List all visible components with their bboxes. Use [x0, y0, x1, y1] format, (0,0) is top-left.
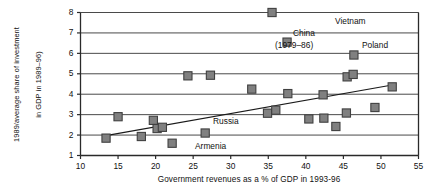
x-axis-tick-label: 20 [144, 161, 168, 171]
data-point-marker [268, 8, 276, 16]
x-axis-tick-label: 10 [69, 161, 93, 171]
data-point-marker [201, 129, 209, 137]
data-point-marker [319, 91, 327, 99]
y-axis-label-line-2: 1989/average share of investment [11, 5, 22, 165]
y-axis-label: MCP (GDP in 1998 as a % of 1989/average … [0, 5, 55, 165]
data-point-marker [332, 122, 340, 130]
data-point-marker [349, 70, 357, 78]
data-point-marker [263, 109, 271, 117]
point-annotation-label: China [293, 28, 315, 38]
x-axis-tick-label: 50 [369, 161, 393, 171]
data-point-marker [388, 83, 396, 91]
x-axis-label: Government revenues as a % of GDP in 199… [80, 175, 418, 184]
data-point-marker [184, 72, 192, 80]
data-point-marker [158, 123, 166, 131]
data-point-marker [114, 113, 122, 121]
y-axis-tick-label: 6 [60, 48, 74, 58]
x-axis-tick-label: 30 [219, 161, 243, 171]
x-axis-tick-label: 55 [407, 161, 431, 171]
point-annotation-label: Russia [213, 116, 239, 126]
data-point-marker [248, 85, 256, 93]
data-point-marker [206, 71, 214, 79]
x-axis-tick-label: 35 [256, 161, 280, 171]
y-axis-tick-label: 8 [60, 7, 74, 17]
data-point-marker [284, 90, 292, 98]
x-axis-tick-label: 25 [181, 161, 205, 171]
data-point-marker [350, 51, 358, 59]
y-axis-tick-label: 2 [60, 130, 74, 140]
y-axis-label-line-3: in GDP in 1989–96) [33, 5, 44, 165]
point-annotation-label: (1979–86) [275, 40, 313, 50]
data-point-marker [320, 114, 328, 122]
scatter-chart: MCP (GDP in 1998 as a % of 1989/average … [0, 0, 440, 193]
x-axis-tick-label: 45 [331, 161, 355, 171]
data-point-marker [305, 115, 313, 123]
y-axis-tick-label: 3 [60, 109, 74, 119]
x-axis-tick-label: 15 [106, 161, 130, 171]
y-axis-tick-label: 4 [60, 89, 74, 99]
data-point-marker [137, 132, 145, 140]
y-axis-tick-label: 1 [60, 150, 74, 160]
data-point-marker [342, 109, 350, 117]
data-point-marker [102, 134, 110, 142]
data-point-marker [149, 116, 157, 124]
data-point-marker [371, 103, 379, 111]
point-annotation-label: Vietnam [335, 16, 366, 26]
data-point-marker [272, 106, 280, 114]
x-axis-tick-label: 40 [294, 161, 318, 171]
point-annotation-label: Armenia [195, 141, 226, 151]
y-axis-tick-label: 5 [60, 68, 74, 78]
y-axis-tick-label: 7 [60, 27, 74, 37]
data-point-marker [168, 139, 176, 147]
point-annotation-label: Poland [362, 40, 388, 50]
